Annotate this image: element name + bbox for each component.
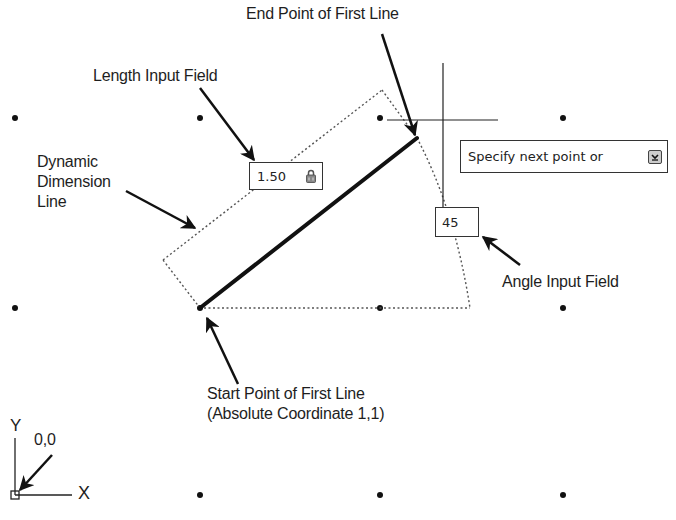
down-arrow-icon[interactable] [648,150,662,164]
arrow-length-field [200,88,254,160]
angle-input-field[interactable]: 45 [435,207,479,237]
label-origin: 0,0 [34,430,56,450]
length-input-field[interactable]: 1.50 [249,162,323,190]
label-axis-x: X [78,483,90,503]
dynamic-dimension-line [163,90,417,308]
label-angle-field: Angle Input Field [502,272,619,292]
angle-dimension-arc [204,138,470,308]
arrow-origin [20,455,52,490]
label-dynamic-line2: Dimension [37,172,111,192]
command-prompt-tooltip[interactable]: Specify next point or [460,140,668,173]
label-axis-y: Y [10,416,21,436]
arrow-dynamic-dimension [126,191,195,228]
label-dynamic-dimension: Dynamic Dimension Line [37,152,111,212]
label-length-field: Length Input Field [93,66,218,86]
length-value: 1.50 [257,169,286,184]
label-start-line1: Start Point of First Line [207,384,384,404]
arrow-angle-field [483,237,520,265]
label-start-line2: (Absolute Coordinate 1,1) [207,404,384,424]
angle-value: 45 [442,215,459,230]
lock-icon[interactable] [306,169,316,183]
arrow-start-point [207,318,238,384]
label-end-point: End Point of First Line [246,4,399,24]
prompt-text: Specify next point or [468,149,603,164]
label-start-point: Start Point of First Line (Absolute Coor… [207,384,384,424]
label-dynamic-line3: Line [37,192,111,212]
label-dynamic-line1: Dynamic [37,152,111,172]
